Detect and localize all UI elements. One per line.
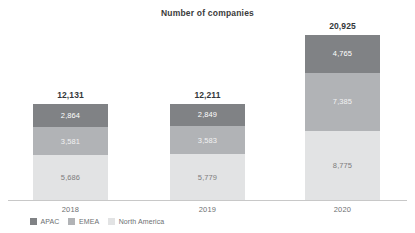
bar-group-2020[interactable]: 20,925 4,765 7,385 8,775 xyxy=(305,35,380,200)
segment-north-america[interactable]: 5,686 xyxy=(33,155,108,200)
chart-legend: APAC EMEA North America xyxy=(30,218,164,225)
x-axis-tick-labels: 2018 2019 2020 xyxy=(0,205,415,217)
segment-north-america[interactable]: 8,775 xyxy=(305,131,380,200)
bar-group-2019[interactable]: 12,211 2,849 3,583 5,779 xyxy=(170,104,245,200)
legend-item-apac[interactable]: APAC xyxy=(30,218,59,225)
x-axis-line xyxy=(8,200,407,201)
legend-item-emea[interactable]: EMEA xyxy=(68,218,99,225)
bar-total-label: 12,211 xyxy=(170,90,245,100)
legend-label: APAC xyxy=(41,218,60,225)
bar-stack: 2,849 3,583 5,779 xyxy=(170,104,245,200)
stacked-bar-chart: Number of companies 12,131 2,864 3,581 5… xyxy=(0,0,415,233)
segment-value-label: 4,765 xyxy=(333,49,352,58)
legend-swatch-icon xyxy=(68,218,75,225)
chart-title: Number of companies xyxy=(0,8,415,18)
segment-emea[interactable]: 7,385 xyxy=(305,73,380,131)
legend-label: EMEA xyxy=(79,218,99,225)
segment-value-label: 2,864 xyxy=(61,111,80,120)
bar-stack: 4,765 7,385 8,775 xyxy=(305,35,380,200)
bar-group-2018[interactable]: 12,131 2,864 3,581 5,686 xyxy=(33,104,108,200)
bar-stack: 2,864 3,581 5,686 xyxy=(33,104,108,200)
x-tick-label-2019: 2019 xyxy=(170,205,245,214)
legend-label: North America xyxy=(119,218,165,225)
plot-area: 12,131 2,864 3,581 5,686 12,211 2,849 xyxy=(0,18,415,201)
bar-total-label: 12,131 xyxy=(33,90,108,100)
segment-value-label: 7,385 xyxy=(333,97,352,106)
legend-swatch-icon xyxy=(30,218,37,225)
legend-item-north-america[interactable]: North America xyxy=(108,218,164,225)
segment-apac[interactable]: 2,864 xyxy=(33,104,108,127)
segment-value-label: 5,686 xyxy=(61,173,80,182)
segment-emea[interactable]: 3,581 xyxy=(33,127,108,155)
bar-total-label: 20,925 xyxy=(305,21,380,31)
segment-value-label: 2,849 xyxy=(198,110,217,119)
segment-value-label: 8,775 xyxy=(333,161,352,170)
x-tick-label-2018: 2018 xyxy=(33,205,108,214)
segment-apac[interactable]: 2,849 xyxy=(170,104,245,126)
x-tick-label-2020: 2020 xyxy=(305,205,380,214)
segment-apac[interactable]: 4,765 xyxy=(305,35,380,73)
segment-value-label: 3,583 xyxy=(198,136,217,145)
segment-north-america[interactable]: 5,779 xyxy=(170,154,245,200)
segment-value-label: 5,779 xyxy=(198,173,217,182)
segment-value-label: 3,581 xyxy=(61,137,80,146)
legend-swatch-icon xyxy=(108,218,115,225)
segment-emea[interactable]: 3,583 xyxy=(170,126,245,154)
